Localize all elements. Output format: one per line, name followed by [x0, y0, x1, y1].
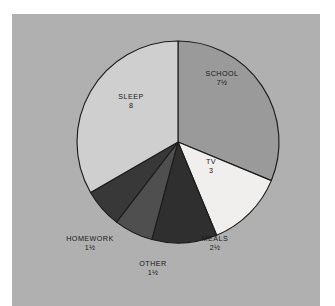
pie-chart: SCHOOL7½TV3MEALS2½OTHER1½HOMEWORK1½SLEEP…: [12, 14, 320, 306]
pie-chart-canvas: [12, 14, 320, 306]
pie-slices-group: [77, 41, 279, 243]
figure-panel: SCHOOL7½TV3MEALS2½OTHER1½HOMEWORK1½SLEEP…: [12, 14, 320, 306]
page-root: SCHOOL7½TV3MEALS2½OTHER1½HOMEWORK1½SLEEP…: [0, 0, 335, 306]
